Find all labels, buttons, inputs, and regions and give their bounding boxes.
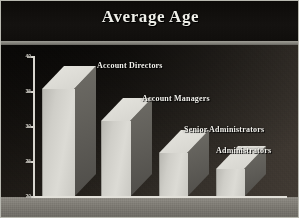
title-band: Average Age: [1, 1, 299, 41]
x-axis-line: [33, 196, 287, 198]
chart-floor-texture: [1, 197, 299, 218]
bar-front-face: [42, 89, 75, 197]
series-label: Senior Administrators: [184, 125, 264, 134]
bar: [159, 153, 187, 197]
series-label: Account Managers: [142, 94, 210, 103]
bar-side-face: [74, 66, 96, 197]
y-axis-tick-label: 40: [17, 54, 31, 59]
y-axis-tick-label: 30: [17, 124, 31, 129]
series-label: Administrators: [216, 146, 271, 155]
page-title: Average Age: [1, 7, 299, 27]
plot-area: 4035302520 Account DirectorsAccount Mana…: [1, 45, 299, 218]
y-axis-tick-label: 20: [17, 194, 31, 199]
bar: [216, 169, 244, 197]
chart-floor: [1, 197, 299, 218]
bar: [101, 121, 130, 197]
bar-front-face: [159, 153, 188, 197]
chart-screenshot: Average Age 4035302520 Account Directors…: [0, 0, 299, 218]
series-label: Account Directors: [97, 61, 163, 70]
bar: [42, 89, 74, 197]
y-axis-tick-label: 25: [17, 159, 31, 164]
y-axis-tick-label: 35: [17, 89, 31, 94]
bar-front-face: [216, 169, 245, 197]
bar-front-face: [101, 121, 131, 197]
